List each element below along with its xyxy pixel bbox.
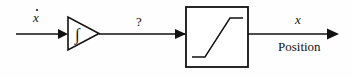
intermediate-signal-arrow [99, 29, 186, 39]
output-signal-arrow [248, 29, 339, 40]
input-signal-arrow [16, 29, 68, 39]
intermediate-arrowhead [175, 29, 186, 39]
saturation-block [186, 7, 248, 67]
input-signal-label: x [33, 11, 39, 24]
integrator-block: ∫ [68, 17, 99, 50]
derivative-dot-icon [36, 9, 38, 11]
intermediate-signal-label: ? [136, 15, 142, 28]
output-description-label: Position [278, 40, 321, 53]
block-diagram: ∫ x ? x Position [0, 0, 352, 78]
input-arrowhead [58, 29, 68, 39]
input-signal-label-text: x [33, 10, 39, 25]
output-signal-label: x [295, 13, 301, 26]
output-arrowhead [327, 29, 339, 40]
